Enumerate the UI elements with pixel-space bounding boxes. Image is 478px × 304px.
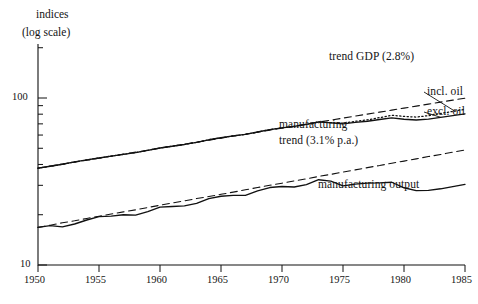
chart-figure: indices (log scale) trend GDP (2.8%) inc… <box>0 0 478 304</box>
x-tick-label-1970: 1970 <box>268 274 289 285</box>
x-tick-label-1950: 1950 <box>24 274 45 285</box>
x-tick-label-1975: 1975 <box>329 274 350 285</box>
y-tick-label-10: 10 <box>20 258 31 269</box>
x-tick-label-1965: 1965 <box>207 274 228 285</box>
x-tick-label-1985: 1985 <box>451 274 472 285</box>
plot-area <box>0 0 478 304</box>
annotation-excl-oil: excl. oil <box>427 105 465 117</box>
x-tick-label-1960: 1960 <box>146 274 167 285</box>
x-tick-label-1955: 1955 <box>85 274 106 285</box>
y-tick-label-100: 100 <box>12 91 28 102</box>
series-line <box>38 109 465 168</box>
annotation-manufacturing-trend: trend (3.1% p.a.) <box>279 134 358 146</box>
annotation-manufacturing-output: manufacturing output <box>318 178 419 190</box>
x-tick-label-1980: 1980 <box>390 274 411 285</box>
series-line <box>38 114 465 168</box>
annotation-trend-gdp: trend GDP (2.8%) <box>329 50 414 62</box>
annotation-manufacturing: manufacturing <box>279 118 347 130</box>
annotation-incl-oil: incl. oil <box>427 85 463 97</box>
